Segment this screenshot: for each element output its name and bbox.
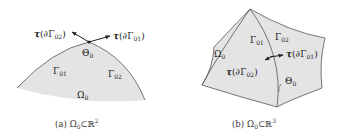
label-tau-gamma02-a: τ(∂Γ02) (34, 29, 66, 40)
tangent-arrow-gamma02 (72, 32, 89, 42)
panel-b: Γ01 Γ02 Ω0 τ(∂Γ01) τ(∂Γ02) Θ0 (b)Ω0⊂ℝ3 (202, 9, 325, 130)
caption-b: (b)Ω0⊂ℝ3 (232, 117, 276, 130)
diagram-canvas: τ(∂Γ02) τ(∂Γ01) Θ0 Γ01 Γ02 Ω0 (a)Ω0⊂ℝ2 Γ… (0, 0, 341, 139)
label-tau-gamma01-a: τ(∂Γ01) (113, 31, 145, 42)
panel-a: τ(∂Γ02) τ(∂Γ01) Θ0 Γ01 Γ02 Ω0 (a)Ω0⊂ℝ2 (17, 29, 145, 130)
tangent-arrow-gamma01 (89, 36, 110, 42)
caption-a: (a)Ω0⊂ℝ2 (55, 117, 99, 130)
